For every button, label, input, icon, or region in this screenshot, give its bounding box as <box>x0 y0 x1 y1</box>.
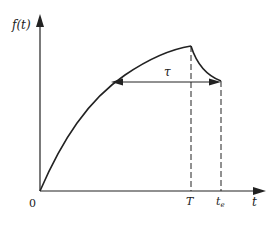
origin-label: 0 <box>29 197 36 210</box>
x-axis-arrow-icon <box>253 187 266 195</box>
x-axis-label: t <box>252 195 257 209</box>
tau-interval-arrow <box>111 79 221 86</box>
tau-label: τ <box>164 65 171 79</box>
x-axis <box>40 187 266 195</box>
tick-te-subscript: e <box>220 201 224 209</box>
function-diagram: f(t) 0 T te t τ <box>0 0 280 230</box>
decay-curve <box>191 46 221 81</box>
tick-T-label: T <box>186 195 195 208</box>
y-axis <box>36 14 44 191</box>
tick-te-label: te <box>216 195 225 209</box>
y-axis-label: f(t) <box>11 18 31 32</box>
y-axis-arrow-icon <box>36 14 44 27</box>
